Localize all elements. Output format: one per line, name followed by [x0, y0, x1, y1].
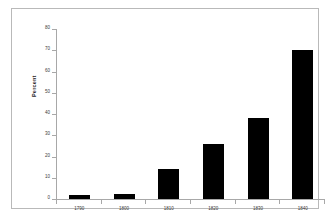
y-axis-tick-label: 10: [45, 174, 50, 179]
y-axis-tick-label: 40: [45, 110, 50, 115]
y-axis-tick: 20: [52, 157, 56, 158]
x-axis-tick: [190, 200, 191, 204]
y-axis-tick-label: 50: [45, 89, 50, 94]
y-axis-title: Percent: [31, 75, 37, 97]
x-axis-label: 1790: [74, 206, 84, 212]
bar: [248, 118, 269, 199]
bars-layer: [57, 29, 325, 199]
x-axis-tick: [101, 200, 102, 204]
y-axis-tick-label: 0: [47, 195, 50, 200]
y-axis-tick: 10: [52, 178, 56, 179]
x-axis-label: 1800: [119, 206, 129, 212]
x-axis-tick: [235, 200, 236, 204]
y-axis-tick-label: 80: [45, 25, 50, 30]
x-axis-tick: [56, 200, 57, 204]
x-axis-tick: [324, 200, 325, 204]
x-axis-label: 1820: [208, 206, 218, 212]
bar: [158, 169, 179, 199]
y-axis-tick: 60: [52, 72, 56, 73]
bar: [292, 50, 313, 199]
y-axis-tick-label: 30: [45, 131, 50, 136]
y-axis-tick: 70: [52, 50, 56, 51]
x-axis-label: 1810: [164, 206, 174, 212]
bar: [69, 195, 90, 199]
x-axis-label: 1830: [253, 206, 263, 212]
bar: [114, 194, 135, 199]
x-axis-tick: [279, 200, 280, 204]
x-axis-tick: [145, 200, 146, 204]
x-axis-label: 1840: [298, 206, 308, 212]
chart-frame: Percent 80706050403020100 17901800181018…: [11, 8, 319, 209]
y-axis-tick-label: 60: [45, 68, 50, 73]
y-axis-tick: 40: [52, 114, 56, 115]
bar: [203, 144, 224, 199]
y-axis-tick: 30: [52, 135, 56, 136]
y-axis-tick-label: 20: [45, 153, 50, 158]
y-axis-tick-label: 70: [45, 46, 50, 51]
y-axis-tick: 80: [52, 29, 56, 30]
y-axis-tick: 50: [52, 93, 56, 94]
